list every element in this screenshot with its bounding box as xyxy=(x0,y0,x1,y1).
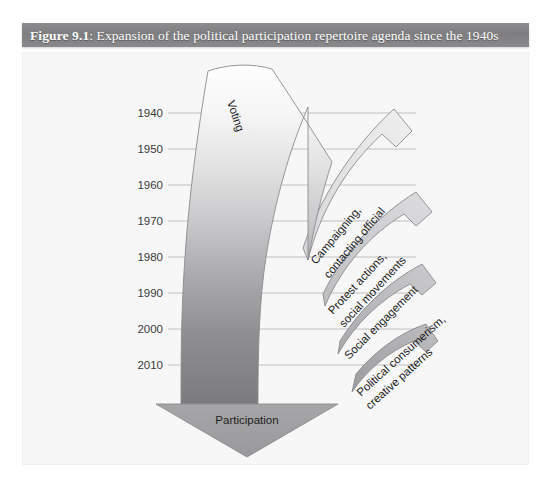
axis-tick-1970: 1970 xyxy=(137,215,163,227)
axis-tick-1990: 1990 xyxy=(137,287,163,299)
axis-tick-2010: 2010 xyxy=(137,359,163,371)
figure-container: Figure 9.1: Expansion of the political p… xyxy=(0,0,551,489)
decade-axis-labels: 1940 1950 1960 1970 1980 1990 2000 2010 xyxy=(137,107,163,371)
figure-title: Figure 9.1: Expansion of the political p… xyxy=(30,25,499,46)
axis-tick-2000: 2000 xyxy=(137,323,163,335)
axis-tick-1940: 1940 xyxy=(137,107,163,119)
axis-tick-1960: 1960 xyxy=(137,179,163,191)
trunk-shape xyxy=(181,65,332,404)
figure-number: Figure 9.1 xyxy=(30,28,89,43)
participation-label: Participation xyxy=(215,414,278,426)
figure-title-separator: : xyxy=(89,28,96,43)
participation-repertoire-diagram: 1940 1950 1960 1970 1980 1990 2000 2010 … xyxy=(22,52,529,465)
axis-tick-1950: 1950 xyxy=(137,143,163,155)
trunk-voting: Voting xyxy=(181,65,332,404)
axis-tick-1980: 1980 xyxy=(137,251,163,263)
participation-arrow-shape xyxy=(156,404,338,457)
figure-caption: Expansion of the political participation… xyxy=(97,28,499,43)
figure-title-bar: Figure 9.1: Expansion of the political p… xyxy=(22,23,529,47)
participation-arrow: Participation xyxy=(156,404,338,457)
